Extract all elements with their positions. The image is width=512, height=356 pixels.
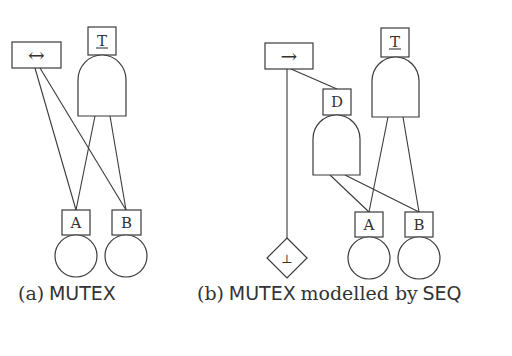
caption-b-middle: modelled by xyxy=(300,282,417,304)
and-gate-icon xyxy=(372,57,419,117)
caption-a: (a) MUTEX xyxy=(18,282,116,305)
top-event-box: T xyxy=(381,28,409,57)
caption-a-name: MUTEX xyxy=(49,282,116,304)
figure-b: → D T ⊥ A B xyxy=(265,28,440,279)
seq-gate: → xyxy=(265,43,313,69)
event-a-label: A xyxy=(70,214,82,232)
caption-a-tag: (a) xyxy=(18,282,44,304)
caption-b-tag: (b) xyxy=(197,282,224,304)
caption-b: (b) MUTEX modelled by SEQ xyxy=(197,282,462,305)
dummy-event-label: D xyxy=(331,93,343,111)
basic-event-a: A xyxy=(55,210,97,277)
mutex-gate: ↔ xyxy=(12,42,61,68)
edge-t-a xyxy=(369,117,388,212)
top-event-box: T xyxy=(88,27,116,55)
caption-b-via: SEQ xyxy=(423,282,462,304)
never-event: ⊥ xyxy=(267,238,307,278)
edge-d-b xyxy=(345,175,419,212)
basic-event-a: A xyxy=(348,212,390,279)
edge-and-a xyxy=(76,116,95,210)
basic-event-circle-icon xyxy=(105,235,147,277)
top-event-label: T xyxy=(97,32,107,50)
edge-seq-d xyxy=(291,69,337,89)
edge-t-b xyxy=(403,117,419,212)
event-b-label: B xyxy=(413,216,424,234)
figure-a: ↔ T A B xyxy=(12,27,147,277)
event-a-label: A xyxy=(363,216,375,234)
caption-b-name: MUTEX xyxy=(229,282,296,304)
edge-mutex-a xyxy=(35,68,76,210)
bottom-symbol-icon: ⊥ xyxy=(281,252,292,266)
and-gate-icon xyxy=(313,115,360,175)
basic-event-b: B xyxy=(398,212,440,279)
and-gate-icon xyxy=(78,55,126,116)
edge-d-a xyxy=(330,175,369,212)
basic-event-b: B xyxy=(105,210,147,277)
bidirectional-arrow-icon: ↔ xyxy=(28,43,45,67)
top-event-label: T xyxy=(390,33,400,51)
basic-event-circle-icon xyxy=(55,235,97,277)
dummy-event-box: D xyxy=(323,89,351,115)
basic-event-circle-icon xyxy=(348,237,390,279)
right-arrow-icon: → xyxy=(281,44,298,68)
event-b-label: B xyxy=(121,214,132,232)
basic-event-circle-icon xyxy=(398,237,440,279)
